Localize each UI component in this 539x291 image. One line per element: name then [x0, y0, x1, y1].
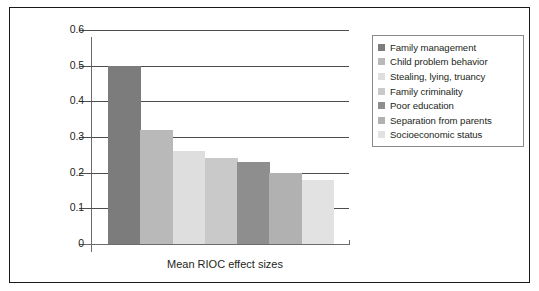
legend-item-label: Poor education: [390, 100, 454, 111]
legend-swatch-icon: [378, 58, 385, 65]
legend-item: Family management: [378, 40, 519, 55]
bar: [269, 173, 302, 244]
chart-legend: Family managementChild problem behaviorS…: [372, 35, 524, 147]
y-axis-tick-labels: 0.60.50.40.30.20.10: [10, 8, 84, 291]
y-axis-tick-label: 0.4: [18, 94, 84, 106]
chart-figure: 0.60.50.40.30.20.10 Mean RIOC effect siz…: [0, 0, 539, 291]
gridline: [83, 244, 349, 245]
y-axis-tick-label: 0.2: [18, 166, 84, 178]
legend-swatch-icon: [378, 102, 385, 109]
legend-item: Family criminality: [378, 84, 519, 99]
bar-series: [108, 30, 334, 244]
bar: [237, 162, 270, 244]
bar: [173, 151, 206, 244]
bar: [140, 130, 173, 244]
y-axis-line: [91, 37, 92, 252]
y-axis-tick-label: 0.5: [18, 59, 84, 71]
legend-swatch-icon: [378, 88, 385, 95]
legend-item-label: Child problem behavior: [390, 56, 488, 67]
legend-item-label: Family management: [390, 42, 476, 53]
y-axis-tick-label: 0.6: [18, 23, 84, 35]
bar: [205, 158, 238, 244]
y-axis-tick-label: 0: [18, 237, 84, 249]
legend-item-label: Separation from parents: [390, 115, 492, 126]
legend-item: Socioeconomic status: [378, 128, 519, 143]
x-axis-title: Mean RIOC effect sizes: [92, 258, 358, 270]
legend-item-label: Stealing, lying, truancy: [390, 71, 485, 82]
legend-item: Stealing, lying, truancy: [378, 69, 519, 84]
y-axis-tick-label: 0.1: [18, 201, 84, 213]
legend-swatch-icon: [378, 73, 385, 80]
bar: [108, 66, 141, 244]
legend-item: Poor education: [378, 98, 519, 113]
bar: [302, 180, 335, 244]
legend-swatch-icon: [378, 131, 385, 138]
figure-border: 0.60.50.40.30.20.10 Mean RIOC effect siz…: [9, 7, 530, 283]
legend-item-label: Family criminality: [390, 86, 463, 97]
legend-item: Separation from parents: [378, 113, 519, 128]
legend-item-label: Socioeconomic status: [390, 129, 482, 140]
legend-swatch-icon: [378, 117, 385, 124]
legend-item: Child problem behavior: [378, 55, 519, 70]
x-axis-end-tick: [349, 240, 350, 245]
y-axis-tick-label: 0.3: [18, 130, 84, 142]
legend-swatch-icon: [378, 44, 385, 51]
